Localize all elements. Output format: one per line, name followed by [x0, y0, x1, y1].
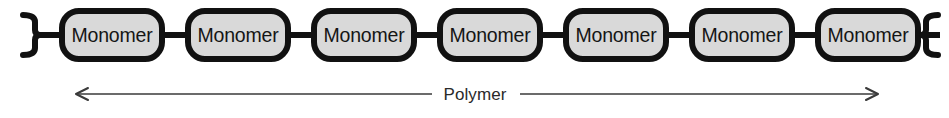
monomer-label: Monomer	[198, 24, 280, 46]
monomer-unit: Monomer	[62, 11, 162, 59]
left-bracket-icon	[23, 15, 39, 55]
monomer-unit: Monomer	[818, 11, 918, 59]
monomer-unit: Monomer	[440, 11, 540, 59]
monomer-label: Monomer	[450, 24, 532, 46]
monomer-unit: Monomer	[314, 11, 414, 59]
polymer-span-annotation: Polymer	[0, 64, 949, 118]
monomer-unit: Monomer	[692, 11, 792, 59]
polymer-diagram: Monomer Monomer Monomer Monomer Monomer …	[0, 0, 949, 118]
monomer-unit: Monomer	[566, 11, 666, 59]
monomer-label: Monomer	[576, 24, 658, 46]
polymer-label: Polymer	[443, 85, 506, 104]
monomer-label: Monomer	[828, 24, 910, 46]
monomer-label: Monomer	[72, 24, 154, 46]
monomer-chain: Monomer Monomer Monomer Monomer Monomer …	[0, 0, 949, 70]
monomer-label: Monomer	[324, 24, 406, 46]
monomer-unit: Monomer	[188, 11, 288, 59]
monomer-label: Monomer	[702, 24, 784, 46]
